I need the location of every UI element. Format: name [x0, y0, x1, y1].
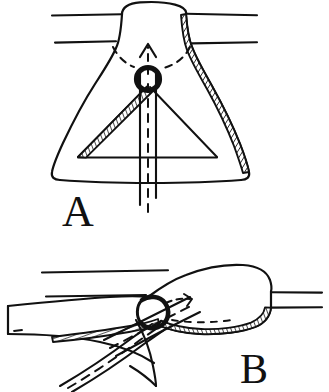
upper-tissue-line-left: [52, 14, 122, 15]
panel-b-label: B: [240, 346, 268, 392]
panel-a-label: A: [62, 187, 94, 236]
lower-tissue-line-left: [55, 41, 116, 42]
b-left-flap-tick: [14, 330, 22, 331]
lower-tissue-line-right: [192, 42, 257, 43]
upper-tissue-line-right: [186, 14, 257, 15]
line-drawing-figure: A: [0, 0, 329, 392]
canvas-background: [0, 0, 329, 392]
figure-container: A: [0, 0, 329, 392]
